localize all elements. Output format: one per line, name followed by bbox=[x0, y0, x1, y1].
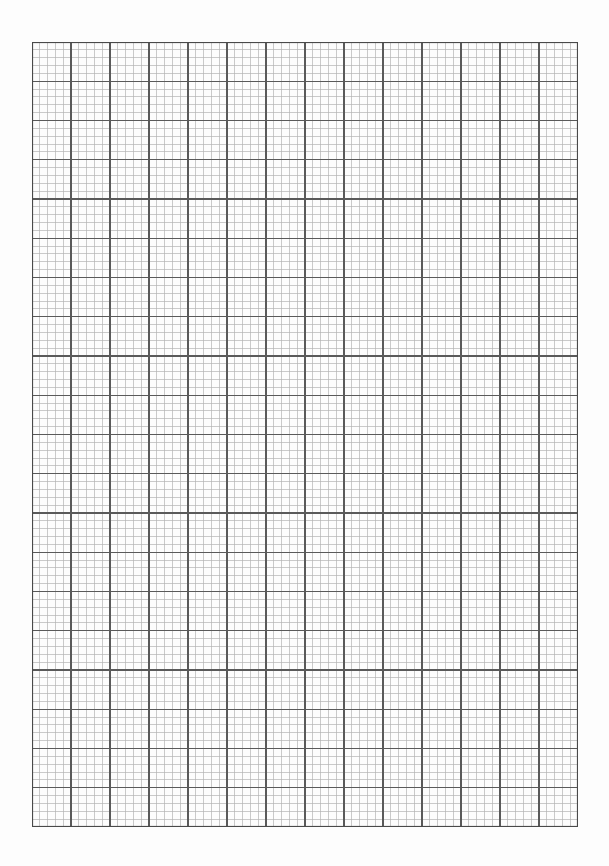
graph-paper-page bbox=[0, 0, 609, 866]
grid-lines bbox=[32, 42, 578, 827]
graph-grid bbox=[32, 42, 578, 827]
